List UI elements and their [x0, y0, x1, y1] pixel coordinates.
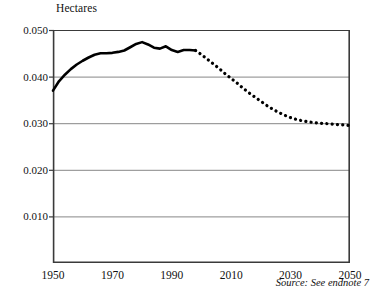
x-axis-tick-label: 1970: [101, 269, 124, 281]
y-axis-tick-label: 0.010: [23, 210, 48, 222]
x-axis-tick-label: 1950: [42, 269, 65, 281]
plot-area: 0.0100.0200.0300.0400.050195019701990201…: [53, 30, 350, 263]
y-axis-tick-label: 0.040: [23, 71, 48, 83]
source-note: Source: See endnote 7: [276, 277, 369, 288]
y-axis-tick-label: 0.020: [23, 164, 48, 176]
x-axis-tick-label: 1990: [160, 269, 183, 281]
x-axis-tick-label: 2010: [220, 269, 243, 281]
y-axis-unit-label: Hectares: [56, 2, 97, 14]
y-axis-tick-label: 0.030: [23, 117, 48, 129]
chart-canvas: [53, 30, 350, 263]
chart-figure: Hectares 0.0100.0200.0300.0400.050195019…: [0, 0, 373, 295]
y-axis-tick-label: 0.050: [23, 24, 48, 36]
